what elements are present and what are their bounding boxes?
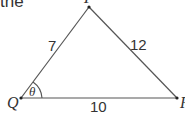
- triangle-diagram: P Q R 7 12 10 θ: [0, 0, 185, 127]
- vertex-q-label: Q: [7, 94, 19, 111]
- vertex-r-dot: [175, 96, 178, 99]
- side-pr-length: 12: [130, 36, 147, 53]
- vertex-q-dot: [19, 96, 22, 99]
- side-qr-length: 10: [90, 98, 107, 115]
- vertex-p-label: P: [83, 0, 94, 6]
- side-pq-length: 7: [48, 37, 56, 54]
- vertex-r-label: R: [179, 94, 185, 111]
- angle-theta-label: θ: [29, 84, 36, 99]
